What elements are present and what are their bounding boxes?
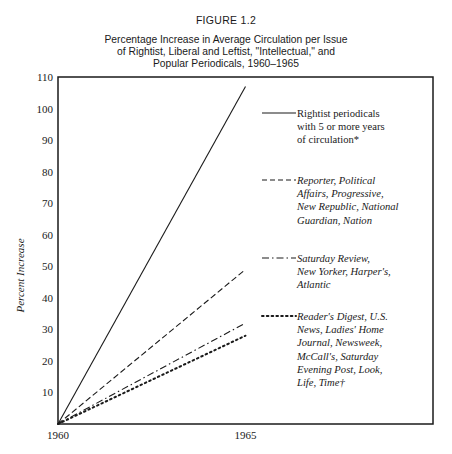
y-tick-label: 60 <box>42 229 54 241</box>
legend-label: News, Ladies' Home <box>296 324 384 335</box>
legend-label: Atlantic <box>296 279 331 290</box>
legend-label: Reader's Digest, U.S. <box>296 311 388 322</box>
x-tick-label: 1960 <box>47 429 70 441</box>
legend-label: with 5 or more years <box>297 121 385 132</box>
y-tick-label: 40 <box>42 292 54 304</box>
legend-item: Saturday Review,New Yorker, Harper's,Atl… <box>262 253 391 290</box>
y-axis-ticks: 102030405060708090100110 <box>37 71 54 398</box>
y-tick-label: 30 <box>42 323 54 335</box>
legend-label: of circulation* <box>297 134 359 145</box>
legend-label: Evening Post, Look, <box>296 364 382 375</box>
legend-label: Saturday Review, <box>297 253 370 264</box>
x-axis-ticks: 19601965 <box>47 429 257 441</box>
series-line-4 <box>58 336 246 424</box>
legend-label: Affairs, Progressive, <box>296 188 384 199</box>
y-axis-title: Percent Increase <box>14 238 26 313</box>
x-tick-label: 1965 <box>235 429 258 441</box>
legend-label: New Yorker, Harper's, <box>296 266 391 277</box>
legend-label: Journal, Newsweek, <box>297 337 382 348</box>
legend-label: Life, Time† <box>296 377 345 388</box>
legend-label: Guardian, Nation <box>297 215 372 226</box>
series-lines <box>58 86 246 424</box>
legend-label: New Republic, National <box>296 201 399 212</box>
y-tick-label: 70 <box>42 197 54 209</box>
legend-item: Reader's Digest, U.S.News, Ladies' HomeJ… <box>262 311 388 388</box>
legend-label: Rightist periodicals <box>297 108 380 119</box>
y-tick-label: 90 <box>42 134 54 146</box>
legend-item: Rightist periodicalswith 5 or more years… <box>262 108 385 145</box>
y-tick-label: 80 <box>42 166 54 178</box>
legend: Rightist periodicalswith 5 or more years… <box>262 108 399 388</box>
legend-label: McCall's, Saturday <box>296 351 379 362</box>
y-tick-label: 10 <box>42 386 54 398</box>
y-tick-label: 50 <box>42 260 54 272</box>
series-line-2 <box>58 269 246 424</box>
y-tick-label: 100 <box>37 103 54 115</box>
y-tick-label: 20 <box>42 355 54 367</box>
y-tick-label: 110 <box>37 71 54 83</box>
line-chart: 102030405060708090100110 19601965 Righti… <box>0 0 452 454</box>
legend-label: Reporter, Political <box>296 175 375 186</box>
legend-item: Reporter, PoliticalAffairs, Progressive,… <box>262 175 399 226</box>
